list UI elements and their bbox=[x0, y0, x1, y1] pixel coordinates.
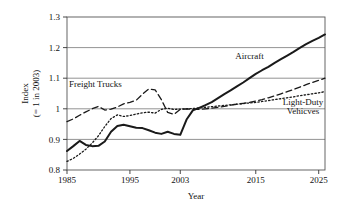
x-tick-label: 2025 bbox=[310, 175, 329, 185]
index-projection-line-chart: 0.80.911.11.21.3 19851995200320152025 Fr… bbox=[0, 0, 342, 210]
x-tick-label: 2015 bbox=[247, 175, 266, 185]
y-tick-label: 1 bbox=[56, 104, 61, 114]
series-annotation: Vehicves bbox=[287, 106, 320, 116]
y-tick-label: 1.2 bbox=[49, 43, 60, 53]
y-axis-title-line1: Index bbox=[20, 83, 30, 104]
y-axis-title-line2: (= 1 in 2003) bbox=[31, 70, 41, 117]
x-axis-title: Year bbox=[188, 191, 205, 201]
y-tick-label: 0.9 bbox=[49, 135, 61, 145]
y-tick-label: 0.8 bbox=[49, 165, 61, 175]
series-annotation: Freight Trucks bbox=[69, 79, 122, 89]
x-tick-label: 2003 bbox=[171, 175, 190, 185]
y-tick-label: 1.1 bbox=[49, 73, 60, 83]
y-tick-label: 1.3 bbox=[49, 12, 61, 22]
x-tick-label: 1985 bbox=[58, 175, 77, 185]
chart-container: 0.80.911.11.21.3 19851995200320152025 Fr… bbox=[0, 0, 342, 210]
series-annotation: Aircraft bbox=[235, 51, 264, 61]
x-tick-label: 1995 bbox=[121, 175, 140, 185]
